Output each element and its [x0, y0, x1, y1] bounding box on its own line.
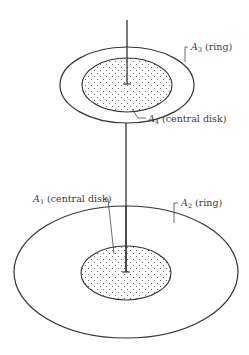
lower-assembly: [14, 206, 238, 338]
label-a3: A3 (ring): [190, 41, 232, 54]
leader-a3: [185, 47, 188, 62]
label-a2: A2 (ring): [180, 197, 222, 210]
label-a1: A1 (central disk): [32, 193, 111, 206]
diagram-canvas: A3 (ring) A4 (central disk) A1 (central …: [0, 0, 249, 355]
label-a4: A4 (central disk): [147, 113, 226, 126]
upper-assembly: [60, 20, 194, 123]
concentric-area-diagram: A3 (ring) A4 (central disk) A1 (central …: [0, 0, 249, 355]
